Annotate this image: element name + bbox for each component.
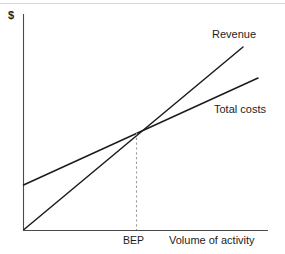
revenue-series-label: Revenue [212, 29, 256, 40]
series-line-revenue [24, 47, 243, 230]
total-costs-series-label: Total costs [214, 104, 266, 115]
chart-canvas: $ Revenue Total costs BEP Volume of acti… [0, 0, 285, 254]
x-axis-title: Volume of activity [169, 235, 255, 246]
bep-label: BEP [123, 235, 144, 246]
y-axis-title: $ [8, 10, 14, 21]
